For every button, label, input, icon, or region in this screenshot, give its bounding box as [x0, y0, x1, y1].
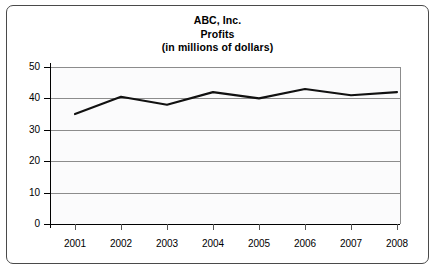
profit-line — [75, 89, 397, 114]
data-series-layer — [0, 0, 435, 271]
chart-figure: ABC, Inc. Profits (in millions of dollar… — [0, 0, 435, 271]
